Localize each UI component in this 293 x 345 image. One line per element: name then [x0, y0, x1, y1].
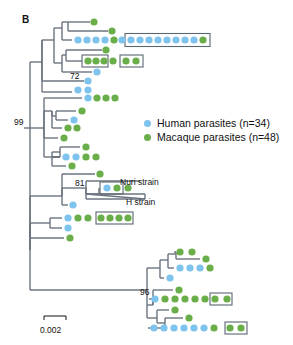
phylogenetic-tree-figure: B: [0, 0, 293, 345]
scale-bar-label: 0.002: [40, 325, 61, 335]
tip-dots: [60, 18, 244, 331]
macaque-parasite-dot-icon: [144, 134, 151, 141]
legend-label-human: Human parasites (n=34): [157, 116, 270, 130]
legend: Human parasites (n=34) Macaque parasites…: [144, 116, 279, 144]
human-parasite-dot-icon: [144, 120, 151, 127]
tree-branches: [24, 22, 200, 328]
panel-label-b: B: [22, 14, 29, 25]
leaf-label-nuri-strain: Nuri strain: [120, 177, 159, 187]
bootstrap-value-72: 72: [70, 71, 79, 81]
legend-item-macaque: Macaque parasites (n=48): [144, 130, 279, 144]
tip-highlight-boxes: [82, 34, 247, 335]
bootstrap-value-96: 96: [140, 287, 149, 297]
legend-item-human: Human parasites (n=34): [144, 116, 279, 130]
legend-label-macaque: Macaque parasites (n=48): [157, 130, 279, 144]
bootstrap-value-81: 81: [75, 178, 84, 188]
leaf-label-h-strain: H strain: [126, 197, 155, 207]
bootstrap-value-99: 99: [14, 117, 23, 127]
scale-bar: [44, 316, 66, 320]
